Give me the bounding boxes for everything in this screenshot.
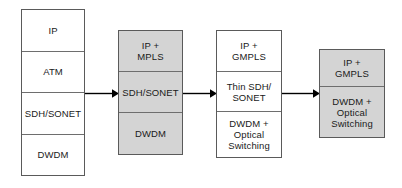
stack-layer-sdh-sonet: SDH/SONET <box>119 72 182 113</box>
stack-layer-ip: IP <box>22 10 84 52</box>
stack-layer-thin-sdh-sonet: Thin SDH/ SONET <box>217 72 281 112</box>
protocol-stack-legacy: IP ATM SDH/SONET DWDM <box>21 9 85 176</box>
stack-layer-dwdm: DWDM <box>119 113 182 154</box>
stack-layer-ip-gmpls: IP + GMPLS <box>217 31 281 72</box>
stack-layer-dwdm: DWDM <box>22 135 84 176</box>
stack-layer-sdh-sonet: SDH/SONET <box>22 93 84 135</box>
arrow-stack1-to-stack2 <box>85 88 119 99</box>
stack-layer-dwdm-optical: DWDM + Optical Switching <box>320 87 384 137</box>
protocol-stack-gmpls-optical: IP + GMPLS DWDM + Optical Switching <box>319 49 385 138</box>
layer-stack-diagram: IP ATM SDH/SONET DWDM IP + MPLS SDH/SONE… <box>0 0 402 188</box>
arrow-stack2-to-stack3 <box>183 88 217 99</box>
stack-layer-atm: ATM <box>22 52 84 94</box>
stack-layer-ip-gmpls: IP + GMPLS <box>320 50 384 87</box>
protocol-stack-gmpls-thin: IP + GMPLS Thin SDH/ SONET DWDM + Optica… <box>216 30 282 158</box>
protocol-stack-mpls: IP + MPLS SDH/SONET DWDM <box>118 30 183 155</box>
stack-layer-ip-mpls: IP + MPLS <box>119 31 182 72</box>
arrow-stack3-to-stack4 <box>282 88 320 99</box>
stack-layer-dwdm-optical: DWDM + Optical Switching <box>217 112 281 157</box>
